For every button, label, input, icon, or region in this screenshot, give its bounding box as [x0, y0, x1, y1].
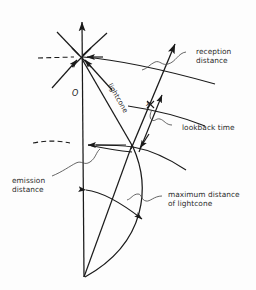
- reception-surface-dash-left: [38, 57, 74, 58]
- event-x-label: x: [146, 99, 151, 108]
- reception-distance-label-line2: distance: [196, 56, 228, 65]
- lightcone-diagram-svg: [0, 0, 256, 290]
- emission-incoming-arrow: [140, 134, 149, 148]
- observation-event-rays: [38, 32, 112, 90]
- lightcone-right-branch: [131, 44, 175, 149]
- reception-distance-label-line1: reception: [196, 47, 231, 56]
- lightcone-group: [82, 44, 175, 277]
- maximum-distance-group: [86, 190, 162, 219]
- origin-label: O: [72, 89, 78, 98]
- maximum-distance-label-line1: maximum distance: [168, 190, 240, 199]
- maximum-distance-leader: [127, 194, 162, 201]
- maximum-distance-label-line2: of lightcone: [168, 199, 212, 208]
- emission-distance-group: [33, 134, 186, 176]
- worldline-of-source: [84, 145, 132, 277]
- ray-lower-left-incoming: [52, 60, 77, 88]
- figure-canvas: O lightcone x reception distance lookbac…: [0, 0, 256, 290]
- emission-distance-leader: [52, 149, 100, 176]
- emission-distance-label-line1: emission: [12, 176, 45, 185]
- emission-distance-curve-dashed: [33, 141, 70, 143]
- lookback-time-label: lookback time: [182, 123, 235, 132]
- emission-distance-label-line2: distance: [12, 185, 44, 194]
